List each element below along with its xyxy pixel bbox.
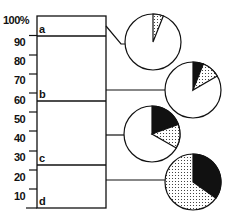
axis-label-50: 50 <box>14 113 26 125</box>
axis-label-80: 80 <box>14 55 26 67</box>
segment-label-d: d <box>39 195 46 207</box>
connector-a <box>106 26 125 44</box>
bar-of-pie-diagram: 100% 90 80 70 60 50 40 30 20 10 a b c d <box>0 0 237 224</box>
pie-chart-c <box>124 106 180 162</box>
stacked-bar <box>37 16 106 208</box>
segment-label-a: a <box>39 23 46 35</box>
axis-label-90: 90 <box>14 36 26 48</box>
axis-label-100: 100% <box>3 14 30 26</box>
axis-label-20: 20 <box>14 171 26 183</box>
axis-label-10: 10 <box>14 190 26 202</box>
pie-chart-a <box>125 14 181 70</box>
segment-labels: a b c d <box>39 23 46 207</box>
pie-chart-d <box>165 154 221 210</box>
segment-label-b: b <box>39 88 46 100</box>
y-axis-labels: 100% 90 80 70 60 50 40 30 20 10 <box>3 14 30 202</box>
axis-label-70: 70 <box>14 74 26 86</box>
axis-label-30: 30 <box>14 151 26 163</box>
pie-chart-b <box>165 62 221 118</box>
axis-label-40: 40 <box>14 132 26 144</box>
y-axis-ticks <box>26 36 37 209</box>
segment-label-c: c <box>39 152 45 164</box>
axis-label-60: 60 <box>14 94 26 106</box>
